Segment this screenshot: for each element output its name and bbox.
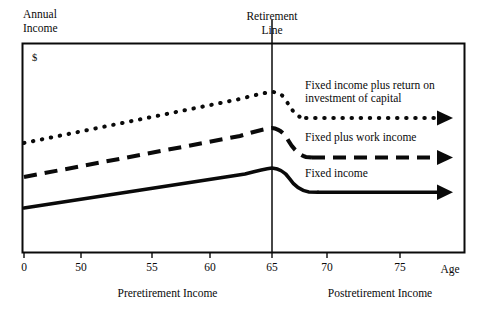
arrow-head-dotted bbox=[437, 111, 453, 126]
x-tick-55: 55 bbox=[146, 261, 158, 274]
series-label-dashed: Fixed plus work income bbox=[305, 131, 416, 144]
caption-preretirement: Preretirement Income bbox=[60, 287, 275, 300]
x-tick-65: 65 bbox=[266, 261, 278, 274]
x-tick-70: 70 bbox=[321, 261, 333, 274]
series-line-fixed-income bbox=[24, 168, 443, 208]
series-label-dotted-line-1: Fixed income plus return on bbox=[305, 79, 435, 92]
arrow-head-dashed bbox=[437, 150, 453, 165]
series-label-dotted-line-2: investment of capital bbox=[305, 92, 401, 105]
x-tick-50: 50 bbox=[75, 261, 87, 274]
x-tick-60: 60 bbox=[204, 261, 216, 274]
y-axis-title-line-1: Annual bbox=[23, 8, 57, 21]
plot-frame bbox=[23, 44, 465, 253]
retirement-line-label-1: Retirement bbox=[222, 10, 322, 23]
retirement-line-label-2: Line bbox=[222, 24, 322, 37]
y-axis-title-line-2: Income bbox=[23, 22, 57, 35]
x-tick-0: 0 bbox=[21, 261, 27, 274]
caption-postretirement: Postretirement Income bbox=[290, 287, 470, 300]
retirement-income-chart: Annual Income $ Retirement Line Fixed in… bbox=[0, 0, 477, 314]
series-label-solid: Fixed income bbox=[305, 167, 368, 180]
y-axis-unit-mark: $ bbox=[32, 52, 37, 64]
y-axis-title-text: Annual bbox=[23, 8, 57, 20]
x-axis-name: Age bbox=[440, 263, 459, 276]
arrow-head-solid bbox=[437, 185, 453, 201]
x-tick-75: 75 bbox=[394, 261, 406, 274]
